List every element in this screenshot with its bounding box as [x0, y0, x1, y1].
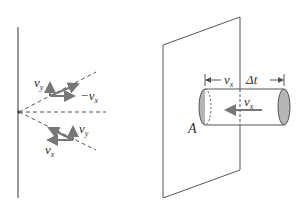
incoming-velocity-arrow	[49, 128, 73, 140]
label-dt: Δt	[245, 72, 258, 87]
label-vy-bottom: vy	[79, 121, 89, 138]
label-vy-top: vy	[34, 75, 44, 92]
momentum-flux-diagram: vy −vx vy vx vx Δt vx A	[0, 0, 300, 212]
label-area-a: A	[187, 121, 197, 136]
flux-panel: vx Δt vx A	[163, 17, 290, 198]
cylinder-left-cap	[199, 89, 205, 125]
label-neg-vx: −vx	[80, 88, 99, 105]
label-vx-bottom: vx	[45, 142, 55, 159]
reflection-panel: vy −vx vy vx	[18, 27, 107, 198]
cylinder-right-cap	[278, 89, 290, 125]
reflected-velocity-arrow	[50, 84, 78, 96]
label-dim-vx: vx	[224, 72, 234, 89]
